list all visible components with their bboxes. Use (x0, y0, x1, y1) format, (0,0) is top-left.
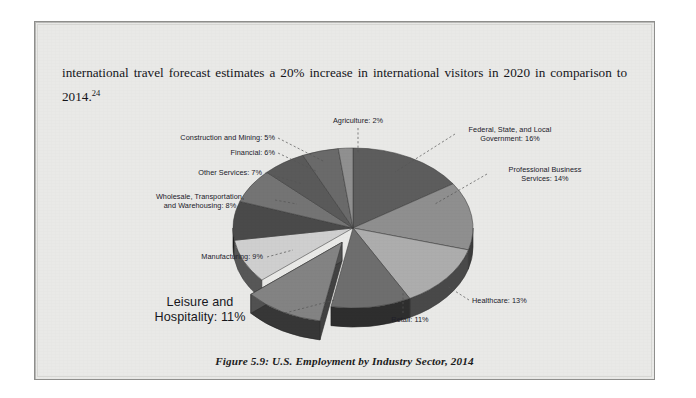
slice-label-agriculture: Agriculture: 2% (303, 116, 413, 125)
pie-chart: Agriculture: 2% Construction and Mining:… (35, 100, 654, 350)
slice-label-wholesale-transportation-warehousing: Wholesale, Transportation, and Warehousi… (130, 192, 270, 211)
slice-label-professional-business-services: Professional Business Services: 14% (475, 165, 615, 184)
body-paragraph-text: international travel forecast estimates … (62, 65, 627, 104)
slice-label-federal-state-local-government: Federal, State, and Local Government: 16… (435, 125, 585, 144)
slice-label-construction-and-mining: Construction and Mining: 5% (105, 133, 275, 142)
scanned-page: international travel forecast estimates … (34, 21, 655, 380)
slice-label-other-services: Other Services: 7% (95, 168, 262, 177)
slice-label-retail: Retail: 11% (365, 315, 455, 324)
slice-label-manufacturing: Manufacturing: 9% (115, 252, 263, 261)
slice-label-leisure-and-hospitality: Leisure and Hospitality: 11% (120, 295, 280, 324)
screenshot-root: international travel forecast estimates … (0, 0, 696, 398)
figure-caption: Figure 5.9: U.S. Employment by Industry … (35, 355, 654, 367)
slice-label-healthcare: Healthcare: 13% (472, 296, 602, 305)
footnote-marker: 24 (92, 88, 101, 98)
slice-label-financial: Financial: 6% (135, 148, 275, 157)
